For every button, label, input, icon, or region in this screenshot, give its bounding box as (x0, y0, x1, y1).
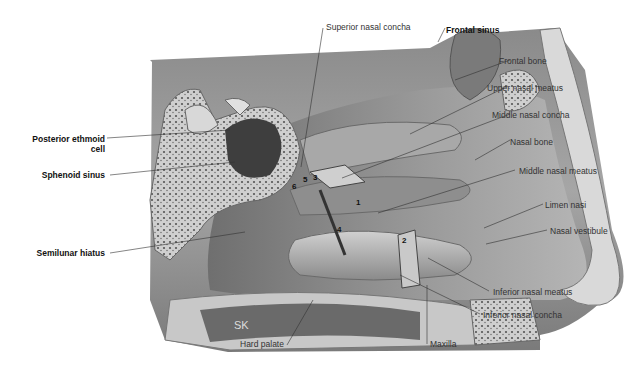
hard-palate-region: SK (165, 293, 540, 351)
svg-text:6: 6 (292, 182, 297, 191)
label-sphenoid-sinus: Sphenoid sinus (10, 170, 105, 180)
svg-text:1: 1 (356, 198, 361, 207)
label-nasal-bone: Nasal bone (510, 137, 553, 147)
label-frontal-sinus: Frontal sinus (446, 25, 499, 35)
artist-initials: SK (234, 319, 249, 331)
svg-text:5: 5 (303, 175, 308, 184)
label-superior-nasal-concha: Superior nasal concha (326, 22, 411, 32)
label-limen-nasi: Limen nasi (545, 200, 586, 210)
label-frontal-bone: Frontal bone (499, 56, 547, 66)
label-hard-palate: Hard palate (240, 339, 284, 349)
label-semilunar-hiatus: Semilunar hiatus (10, 248, 105, 258)
svg-text:2: 2 (402, 236, 407, 245)
label-posterior-ethmoid-cell: Posterior ethmoid cell (10, 134, 105, 154)
label-posterior-ethmoid-line1: Posterior ethmoid (10, 134, 105, 144)
label-middle-nasal-meatus: Middle nasal meatus (519, 166, 597, 176)
label-inferior-nasal-concha: Inferior nasal concha (483, 310, 562, 320)
label-nasal-vestibule: Nasal vestibule (550, 226, 608, 236)
label-middle-nasal-concha: Middle nasal concha (492, 110, 570, 120)
conchae (289, 122, 472, 280)
label-posterior-ethmoid-line2: cell (10, 144, 105, 154)
label-inferior-nasal-meatus: Inferior nasal meatus (493, 287, 572, 297)
svg-text:3: 3 (313, 173, 318, 182)
label-upper-nasal-meatus: Upper nasal meatus (487, 83, 563, 93)
svg-text:4: 4 (337, 225, 342, 234)
label-maxilla: Maxilla (430, 339, 456, 349)
